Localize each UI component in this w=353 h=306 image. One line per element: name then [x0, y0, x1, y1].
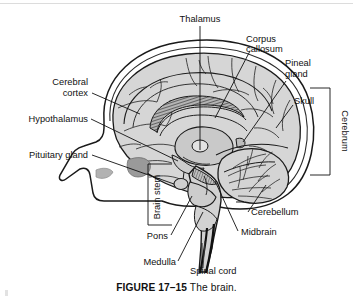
label-pituitary-gland: Pituitary gland [29, 150, 88, 160]
label-corpus-callosum-line2: callosum [246, 44, 283, 54]
label-skull: Skull [294, 96, 314, 106]
label-pineal-gland-line1: Pineal [285, 58, 311, 68]
label-cerebrum: Cerebrum [340, 110, 350, 152]
label-brain-stem: Brain stem [152, 175, 162, 220]
label-corpus-callosum-line1: Corpus [246, 34, 276, 44]
label-pineal-gland-line2: gland [285, 69, 308, 79]
label-hypothalamus: Hypothalamus [29, 114, 89, 124]
figure-caption: FIGURE 17–15 The brain. [0, 282, 353, 293]
label-thalamus: Thalamus [180, 14, 221, 24]
brain-stem-group [188, 166, 221, 273]
figure-page: Thalamus Corpus callosum Pineal gland Sk… [0, 0, 353, 306]
label-spinal-cord: Spinal cord [190, 266, 237, 276]
brain-sagittal-diagram: Thalamus Corpus callosum Pineal gland Sk… [0, 0, 353, 306]
label-medulla: Medulla [143, 257, 176, 267]
pituitary-gland-body [174, 179, 188, 190]
label-cerebral-cortex-line1: Cerebral [52, 77, 88, 87]
label-cerebellum: Cerebellum [251, 207, 299, 217]
figure-number: FIGURE 17–15 [116, 282, 187, 293]
label-cerebral-cortex-line2: cortex [63, 88, 89, 98]
label-midbrain: Midbrain [241, 227, 277, 237]
figure-title: The brain. [190, 282, 237, 293]
leader-medulla [178, 212, 203, 261]
label-pons: Pons [147, 231, 169, 241]
